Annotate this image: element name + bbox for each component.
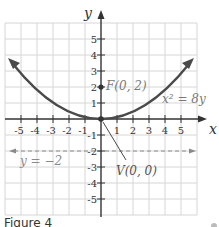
parabola-figure: -5 -4 -3 -2 -1 1 2 3 4 5 5 4 3 2 1 -1 -2… [0, 0, 219, 227]
y-tick-label: -5 [87, 194, 97, 205]
y-axis-arrow-icon [98, 10, 105, 19]
figure-caption: Figure 4 [4, 216, 52, 227]
x-tick-label: 4 [162, 125, 168, 136]
arrow-left-icon [9, 149, 16, 154]
x-tick-label: 5 [178, 125, 184, 136]
curve-arrow-left-icon [8, 58, 20, 69]
y-axis [97, 10, 105, 217]
y-tick-label: 3 [91, 66, 97, 77]
x-tick-label: 1 [114, 125, 120, 136]
y-tick-label: 2 [91, 82, 97, 93]
x-tick-label: -5 [14, 125, 24, 136]
vertex-label: V(0, 0) [116, 164, 157, 178]
y-tick-label: 1 [91, 98, 97, 109]
x-tick-label: -4 [30, 125, 40, 136]
y-axis-label: y [83, 5, 93, 21]
y-tick-label: 5 [91, 34, 97, 45]
y-tick-label: -3 [87, 162, 97, 173]
x-tick-label: 3 [146, 125, 152, 136]
y-tick-label: -4 [87, 178, 97, 189]
vertex-point [98, 116, 104, 122]
x-axis-arrow-icon [198, 116, 207, 123]
x-tick-label: -3 [46, 125, 56, 136]
y-tick-label: -1 [87, 130, 97, 141]
y-tick-label: 4 [91, 50, 97, 61]
x-tick-label: 2 [130, 125, 136, 136]
x-tick-labels: -5 -4 -3 -2 -1 1 2 3 4 5 [14, 125, 184, 136]
equation-label: x² = 8y [162, 92, 206, 106]
focus-point [98, 84, 103, 89]
decoration-dot-icon [211, 223, 217, 227]
arrow-right-icon [189, 149, 196, 154]
curve-arrow-right-icon [182, 58, 194, 69]
focus-label: F(0, 2) [105, 79, 147, 93]
x-tick-label: -2 [62, 125, 72, 136]
y-tick-label: -2 [87, 146, 97, 157]
x-axis-label: x [209, 121, 217, 137]
directrix-label: y = −2 [19, 154, 62, 168]
